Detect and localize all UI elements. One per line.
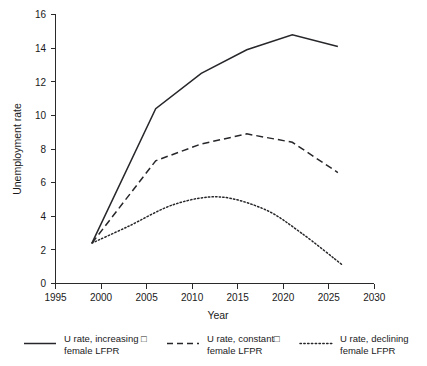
plot-series-group: [92, 35, 342, 265]
x-axis-ticks: [56, 284, 375, 290]
legend-label-declining-line2: female LFPR: [340, 345, 396, 356]
x-tick-label-2000: 2000: [90, 292, 113, 303]
x-tick-label-2015: 2015: [227, 292, 250, 303]
y-tick-label-16: 16: [35, 9, 47, 20]
legend-label-constant-line1: U rate, constant□: [207, 333, 280, 344]
legend-label-constant-line2: female LFPR: [207, 345, 263, 356]
y-tick-label-14: 14: [35, 43, 47, 54]
x-tick-label-2025: 2025: [318, 292, 341, 303]
y-tick-label-2: 2: [40, 245, 46, 256]
y-axis-title: Unemployment rate: [11, 103, 23, 195]
y-tick-label-12: 12: [35, 77, 47, 88]
line-chart: 16 14 12 10 8 6 4 2 0 1995 2000 2005 201: [0, 0, 427, 366]
y-tick-label-4: 4: [40, 211, 46, 222]
legend-entry-declining-lfpr[interactable]: U rate, declining female LFPR: [300, 333, 409, 356]
legend-entry-increasing-lfpr[interactable]: U rate, increasing □ female LFPR: [24, 333, 147, 356]
x-tick-label-1995: 1995: [44, 292, 67, 303]
y-tick-label-0: 0: [40, 278, 46, 289]
legend-label-declining-line1: U rate, declining: [340, 333, 409, 344]
legend-label-increasing-line2: female LFPR: [64, 345, 120, 356]
y-tick-label-6: 6: [40, 177, 46, 188]
y-tick-label-10: 10: [35, 110, 47, 121]
series-line-declining-lfpr: [92, 197, 342, 265]
y-axis-tick-labels: 16 14 12 10 8 6 4 2 0: [35, 9, 47, 289]
chart-figure: 16 14 12 10 8 6 4 2 0 1995 2000 2005 201: [0, 0, 427, 366]
legend-label-increasing-line1: U rate, increasing □: [64, 333, 147, 344]
x-axis-title: Year: [207, 309, 229, 321]
y-axis-ticks: [51, 15, 56, 284]
x-tick-label-2010: 2010: [181, 292, 204, 303]
legend-entry-constant-lfpr[interactable]: U rate, constant□ female LFPR: [167, 333, 280, 356]
chart-legend: U rate, increasing □ female LFPR U rate,…: [24, 333, 409, 356]
y-tick-label-8: 8: [40, 144, 46, 155]
x-tick-label-2030: 2030: [363, 292, 386, 303]
x-tick-label-2005: 2005: [135, 292, 158, 303]
x-axis-tick-labels: 1995 2000 2005 2010 2015 2020 2025 2030: [44, 292, 385, 303]
series-line-increasing-lfpr: [92, 35, 338, 243]
x-tick-label-2020: 2020: [272, 292, 295, 303]
